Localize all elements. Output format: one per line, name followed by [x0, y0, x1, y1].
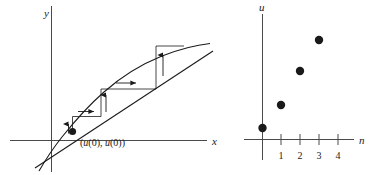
sequence-panel: 1 2 3 4 u n — [232, 0, 390, 175]
map-curve — [39, 44, 210, 172]
initial-point-label: (u(0), u(0)) — [80, 137, 125, 149]
cobweb-staircase — [73, 46, 185, 129]
sequence-y-axis-label: u — [259, 1, 265, 13]
cobweb-panel: y x (u(0), u(0)) — [0, 0, 232, 175]
sequence-svg: 1 2 3 4 u n — [232, 0, 390, 175]
sequence-data-points — [258, 36, 323, 132]
figure-root: y x (u(0), u(0)) 1 2 3 — [0, 0, 390, 175]
data-point — [277, 101, 285, 109]
cobweb-direction-arrows — [69, 55, 164, 134]
cobweb-svg: y x (u(0), u(0)) — [0, 0, 232, 175]
sequence-tick-labels: 1 2 3 4 — [279, 150, 341, 161]
cobweb-y-axis-label: y — [43, 7, 49, 19]
identity-line — [35, 51, 213, 168]
data-point — [315, 36, 323, 44]
data-point — [258, 124, 266, 132]
tick-label-4: 4 — [336, 150, 341, 161]
tick-label-2: 2 — [298, 150, 303, 161]
initial-point-dot — [69, 128, 76, 135]
sequence-x-axis-label: n — [359, 134, 365, 146]
data-point — [296, 67, 304, 75]
tick-label-1: 1 — [279, 150, 284, 161]
tick-label-3: 3 — [317, 150, 322, 161]
cobweb-x-axis-label: x — [211, 135, 217, 147]
